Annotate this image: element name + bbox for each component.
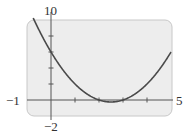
chart-plot xyxy=(0,0,191,136)
ymax-label: 10 xyxy=(44,4,57,17)
ymin-label: −2 xyxy=(44,120,58,133)
xmin-label: −1 xyxy=(6,94,20,107)
xmax-label: 5 xyxy=(176,94,183,107)
